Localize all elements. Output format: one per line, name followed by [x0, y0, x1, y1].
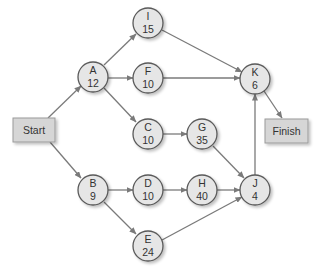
node-a: A 12	[78, 62, 108, 92]
node-a-duration: 12	[87, 77, 99, 89]
node-a-id: A	[89, 64, 96, 76]
node-g-duration: 35	[196, 134, 208, 146]
node-i-duration: 15	[142, 23, 154, 35]
node-k: K 6	[240, 64, 270, 94]
node-c-duration: 10	[142, 134, 154, 146]
node-h: H 40	[187, 175, 217, 205]
node-j-id: J	[252, 177, 257, 189]
node-b-id: B	[89, 177, 96, 189]
edge-a-i	[104, 34, 136, 65]
edge-start-b	[50, 142, 81, 178]
edge-a-c	[104, 88, 136, 122]
node-e-id: E	[144, 233, 151, 245]
node-h-duration: 40	[196, 190, 208, 202]
network-diagram: Start Finish A 12 B 9 I 15 F 10 C 10 G 3…	[0, 0, 319, 273]
node-h-id: H	[198, 177, 206, 189]
edge-k-finish	[264, 91, 282, 118]
node-b: B 9	[78, 175, 108, 205]
node-e-duration: 24	[142, 246, 154, 258]
node-e: E 24	[133, 231, 163, 261]
node-f: F 10	[133, 63, 163, 93]
node-c: C 10	[133, 119, 163, 149]
node-c-id: C	[144, 121, 152, 133]
edge-b-e	[104, 202, 136, 234]
start-label: Start	[23, 124, 45, 136]
node-b-duration: 9	[90, 190, 96, 202]
node-k-duration: 6	[252, 79, 258, 91]
node-j: J 4	[240, 175, 270, 205]
finish-label: Finish	[272, 125, 300, 137]
node-f-id: F	[145, 65, 151, 77]
edges	[48, 30, 282, 240]
edge-start-a	[48, 86, 81, 118]
node-f-duration: 10	[142, 78, 154, 90]
node-k-id: K	[251, 66, 258, 78]
node-j-duration: 4	[252, 190, 258, 202]
edge-i-k	[162, 30, 242, 72]
node-g-id: G	[198, 121, 206, 133]
node-i: I 15	[133, 8, 163, 38]
node-d: D 10	[133, 175, 163, 205]
node-d-id: D	[144, 177, 152, 189]
node-g: G 35	[187, 119, 217, 149]
edge-g-j	[213, 146, 244, 178]
node-i-id: I	[147, 10, 150, 22]
node-d-duration: 10	[142, 190, 154, 202]
